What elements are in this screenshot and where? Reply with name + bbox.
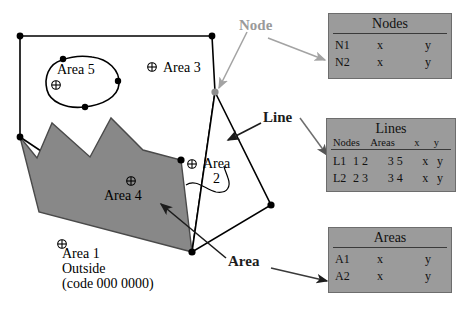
cell-id: A1 — [335, 251, 377, 268]
table-row: N1 x y — [329, 37, 451, 54]
label-area-2-line2: 2 — [203, 171, 230, 186]
cell-x: x — [422, 170, 437, 187]
table-row: A2 x y — [329, 268, 451, 285]
nodes-table: Nodes N1 x y N2 x y — [328, 13, 452, 79]
node-dot — [115, 78, 121, 84]
node-dot — [17, 33, 24, 40]
lines-table-title: Lines — [327, 119, 455, 137]
cell-y: y — [425, 268, 445, 285]
cell-nodes: 2 3 — [353, 170, 388, 187]
lines-table-subheader: Nodes Areas x y — [327, 137, 455, 148]
cell-x: x — [377, 251, 425, 268]
callout-node: Node — [239, 17, 272, 34]
lines-table: Lines Nodes Areas x y L1 1 2 3 5 x y L2 … — [326, 118, 456, 192]
node-dot — [82, 104, 88, 110]
label-area-2: Area 2 — [203, 156, 230, 186]
label-area-1-line1: Area 1 — [62, 246, 100, 261]
label-area-1-line3: (code 000 0000) — [62, 276, 154, 291]
cell-x: x — [377, 268, 425, 285]
table-row: A1 x y — [329, 251, 451, 268]
callout-line: Line — [263, 109, 292, 126]
cell-id: N2 — [335, 54, 377, 71]
centroid-crossed-circle-icon — [52, 81, 61, 90]
diagram-page: Area 5 Area 3 Area 2 Area 4 Area 1 Outsi… — [0, 0, 463, 317]
areas-table: Areas A1 x y A2 x y — [328, 227, 452, 293]
label-area-5: Area 5 — [57, 62, 95, 77]
cell-y: y — [425, 37, 445, 54]
label-area-2-line1: Area — [203, 156, 230, 171]
cell-id: A2 — [335, 268, 377, 285]
subheader-areas: Areas — [370, 137, 414, 148]
node-dot — [177, 156, 184, 163]
label-area-3: Area 3 — [163, 60, 201, 75]
cell-id: N1 — [335, 37, 377, 54]
cell-y: y — [437, 153, 449, 170]
cell-x: x — [377, 54, 425, 71]
cell-x: x — [377, 37, 425, 54]
areas-table-rule — [333, 247, 447, 248]
subheader-x: x — [414, 137, 433, 148]
node-dot-highlight — [211, 88, 218, 95]
node-dot — [188, 248, 195, 255]
subheader-nodes: Nodes — [333, 137, 370, 148]
table-row: N2 x y — [329, 54, 451, 71]
cell-x: x — [422, 153, 437, 170]
cell-y: y — [437, 170, 449, 187]
label-area-4: Area 4 — [104, 188, 142, 203]
nodes-table-title: Nodes — [329, 14, 451, 32]
areas-table-title: Areas — [329, 228, 451, 246]
nodes-table-rule — [333, 33, 447, 34]
cell-areas: 3 5 — [388, 153, 423, 170]
centroid-crossed-circle-icon — [148, 63, 157, 72]
cell-id: L2 — [333, 170, 353, 187]
node-dot — [267, 201, 274, 208]
cell-y: y — [425, 54, 445, 71]
cell-areas: 3 4 — [388, 170, 423, 187]
lines-table-rule — [331, 149, 451, 150]
area-table-arrow — [271, 268, 327, 281]
node-dot — [17, 134, 24, 141]
node-table-arrow — [268, 38, 325, 60]
subheader-y: y — [434, 137, 449, 148]
cell-nodes: 1 2 — [353, 153, 388, 170]
cell-id: L1 — [333, 153, 353, 170]
centroid-crossed-circle-icon — [188, 160, 197, 169]
label-area-1: Area 1 Outside (code 000 0000) — [62, 246, 154, 291]
node-dot — [209, 33, 216, 40]
table-row: L1 1 2 3 5 x y — [327, 153, 455, 170]
cell-y: y — [425, 251, 445, 268]
centroid-crossed-circle-icon — [127, 177, 136, 186]
callout-area: Area — [228, 253, 259, 270]
line-table-arrow — [300, 118, 327, 155]
table-row: L2 2 3 3 4 x y — [327, 170, 455, 187]
label-area-1-line2: Outside — [62, 261, 106, 276]
node-callout-arrow — [219, 32, 247, 88]
